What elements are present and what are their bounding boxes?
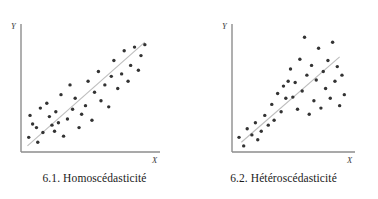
- scatter-point: [340, 73, 343, 76]
- scatter-point: [45, 102, 48, 105]
- scatter-point: [126, 80, 129, 83]
- scatter-point: [80, 112, 83, 115]
- y-axis-label: Y: [222, 21, 228, 31]
- scatter-point: [86, 80, 89, 83]
- scatter-point: [301, 89, 304, 92]
- scatter-plot-homoscedasticite: Y X: [0, 0, 189, 170]
- panel-caption-homoscedasticite: 6.1. Homoscédasticité: [0, 172, 189, 184]
- trendline-left: [27, 42, 144, 146]
- scatter-point: [276, 92, 279, 95]
- y-axis-label: Y: [11, 21, 17, 31]
- panel-caption-heteroscedasticite: 6.2. Hétéroscédasticité: [189, 172, 378, 184]
- scatter-point: [120, 72, 123, 75]
- scatter-point: [284, 97, 287, 100]
- scatter-point: [28, 114, 31, 117]
- scatter-point: [139, 54, 142, 57]
- scatter-point: [66, 117, 69, 120]
- scatter-point: [317, 47, 320, 50]
- scatter-point: [123, 49, 126, 52]
- scatter-point: [242, 144, 245, 147]
- scatter-point: [329, 97, 332, 100]
- scatter-point: [272, 119, 275, 122]
- scatter-point: [333, 80, 336, 83]
- scatter-point: [39, 106, 42, 109]
- scatter-point: [84, 104, 87, 107]
- scatter-point: [293, 81, 296, 84]
- scatter-point: [312, 99, 315, 102]
- scatter-point: [57, 121, 60, 124]
- x-axis-label: X: [151, 155, 158, 165]
- plot-svg-left: Y X: [0, 0, 189, 170]
- scatter-point: [343, 93, 346, 96]
- scatter-point: [116, 87, 119, 90]
- axes-right: [232, 24, 355, 152]
- scatter-point: [68, 83, 71, 86]
- scatter-point: [336, 65, 339, 68]
- plot-svg-right: Y X: [189, 0, 378, 170]
- scatter-point: [250, 133, 253, 136]
- scatter-point: [286, 80, 289, 83]
- scatter-point: [133, 45, 136, 48]
- scatter-point: [303, 36, 306, 39]
- scatter-point: [137, 69, 140, 72]
- scatter-point: [263, 114, 266, 117]
- scatter-point: [254, 121, 257, 124]
- scatter-point: [59, 93, 62, 96]
- scatter-point: [93, 91, 96, 94]
- scatter-point: [90, 119, 93, 122]
- scatter-point: [71, 108, 74, 111]
- scatter-point: [305, 73, 308, 76]
- scatter-point: [143, 43, 146, 46]
- scatter-point: [112, 59, 115, 62]
- panel-heteroscedasticite: Y X 6.2. Hétéroscédasticité: [189, 0, 378, 199]
- panel-homoscedasticite: Y X 6.1. Homoscédasticité: [0, 0, 189, 199]
- scatter-point: [319, 106, 322, 109]
- scatter-point: [279, 110, 282, 113]
- scatter-point: [296, 108, 299, 111]
- scatter-point: [107, 105, 110, 108]
- scatter-point: [48, 115, 51, 118]
- scatter-point: [62, 134, 65, 137]
- x-axis-label: X: [346, 155, 353, 165]
- scatter-point: [237, 136, 240, 139]
- scatter-point: [50, 123, 53, 126]
- scatter-point: [338, 104, 341, 107]
- scatter-point: [324, 87, 327, 90]
- scatter-point: [77, 126, 80, 129]
- scatter-point: [310, 64, 313, 67]
- scatter-point: [289, 67, 292, 70]
- scatter-points-right: [237, 36, 346, 148]
- scatter-point: [260, 130, 263, 133]
- scatter-point: [308, 112, 311, 115]
- scatter-point: [291, 95, 294, 98]
- scatter-point: [41, 131, 44, 134]
- scatter-point: [99, 99, 102, 102]
- scatter-point: [322, 70, 325, 73]
- scatter-point: [73, 97, 76, 100]
- scatter-point: [103, 83, 106, 86]
- scatter-plot-heteroscedasticite: Y X: [189, 0, 378, 170]
- scatter-point: [270, 103, 273, 106]
- scatter-point: [97, 70, 100, 73]
- scatter-point: [36, 141, 39, 144]
- scatter-point: [110, 75, 113, 78]
- figure-container: Y X 6.1. Homoscédasticité Y X 6.2. Hétér…: [0, 0, 378, 199]
- scatter-point: [53, 130, 56, 133]
- scatter-point: [54, 110, 57, 113]
- scatter-point: [267, 123, 270, 126]
- scatter-point: [298, 58, 301, 61]
- scatter-point: [246, 127, 249, 130]
- scatter-point: [129, 64, 132, 67]
- scatter-point: [27, 136, 30, 139]
- scatter-point: [315, 78, 318, 81]
- scatter-point: [282, 84, 285, 87]
- scatter-point: [326, 59, 329, 62]
- scatter-point: [31, 122, 34, 125]
- scatter-point: [331, 41, 334, 44]
- scatter-point: [35, 126, 38, 129]
- scatter-point: [256, 138, 259, 141]
